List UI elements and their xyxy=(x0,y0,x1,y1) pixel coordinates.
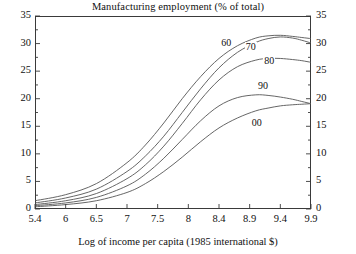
x-label-9.9: 9.9 xyxy=(295,213,327,224)
chart-title: Manufacturing employment (% of total) xyxy=(0,1,356,12)
series-label-70: 70 xyxy=(245,42,257,52)
y-label-left-30: 30 xyxy=(9,37,31,48)
y-label-right-15: 15 xyxy=(316,119,338,130)
x-label-7.5: 7.5 xyxy=(142,213,174,224)
series-line-80 xyxy=(35,58,311,204)
series-label-90: 90 xyxy=(257,81,269,91)
y-label-right-30: 30 xyxy=(316,37,338,48)
y-label-right-5: 5 xyxy=(316,174,338,185)
curves-group xyxy=(35,16,311,209)
y-label-right-10: 10 xyxy=(316,147,338,158)
x-label-6: 6 xyxy=(50,213,82,224)
x-label-5.4: 5.4 xyxy=(19,213,51,224)
y-label-left-20: 20 xyxy=(9,92,31,103)
y-label-left-10: 10 xyxy=(9,147,31,158)
y-label-left-35: 35 xyxy=(9,9,31,20)
y-label-right-25: 25 xyxy=(316,64,338,75)
series-label-80: 80 xyxy=(263,56,275,66)
x-label-8.4: 8.4 xyxy=(203,213,235,224)
y-label-right-20: 20 xyxy=(316,92,338,103)
x-label-9.4: 9.4 xyxy=(264,213,296,224)
plot-area xyxy=(35,16,311,209)
x-label-8.9: 8.9 xyxy=(234,213,266,224)
y-label-right-35: 35 xyxy=(316,9,338,20)
y-label-left-15: 15 xyxy=(9,119,31,130)
y-label-left-5: 5 xyxy=(9,174,31,185)
y-label-left-25: 25 xyxy=(9,64,31,75)
x-label-7: 7 xyxy=(111,213,143,224)
chart-container: Manufacturing employment (% of total) 00… xyxy=(0,0,356,254)
y-label-left-0: 0 xyxy=(9,202,31,213)
x-axis-title: Log of income per capita (1985 internati… xyxy=(0,236,356,247)
x-label-6.5: 6.5 xyxy=(80,213,112,224)
x-label-8: 8 xyxy=(172,213,204,224)
y-label-right-0: 0 xyxy=(316,202,338,213)
series-label-60: 60 xyxy=(220,38,232,48)
series-label-00: 00 xyxy=(251,118,263,128)
